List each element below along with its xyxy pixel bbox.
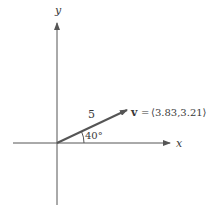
magnitude-label: 5 bbox=[88, 108, 95, 121]
angle-label: 40° bbox=[85, 130, 103, 141]
angle-arc bbox=[82, 132, 85, 144]
vector-diagram: y x 5 40° v = ⟨3.83,3.21⟩ bbox=[0, 0, 212, 216]
x-axis-label: x bbox=[176, 137, 183, 150]
vector-equals-sign: = bbox=[141, 107, 149, 118]
y-axis-label: y bbox=[54, 4, 62, 17]
vector-name-label: v bbox=[130, 106, 138, 119]
vector-components-label: ⟨3.83,3.21⟩ bbox=[151, 107, 207, 118]
